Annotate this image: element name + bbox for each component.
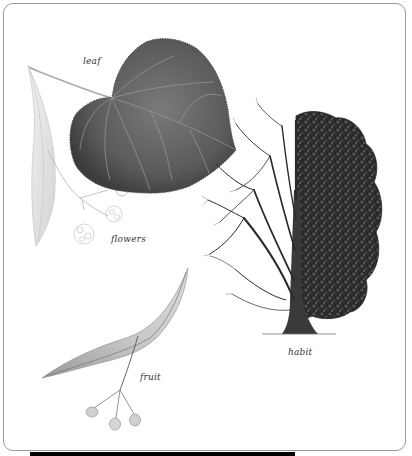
botanical-illustration bbox=[0, 0, 412, 456]
fruit-illustration bbox=[42, 268, 188, 430]
label-fruit: fruit bbox=[140, 372, 161, 382]
label-leaf: leaf bbox=[83, 56, 101, 66]
label-flowers: flowers bbox=[111, 234, 146, 244]
leaf-illustration bbox=[30, 39, 236, 193]
bottom-bar bbox=[30, 452, 295, 456]
label-habit: habit bbox=[288, 347, 312, 357]
